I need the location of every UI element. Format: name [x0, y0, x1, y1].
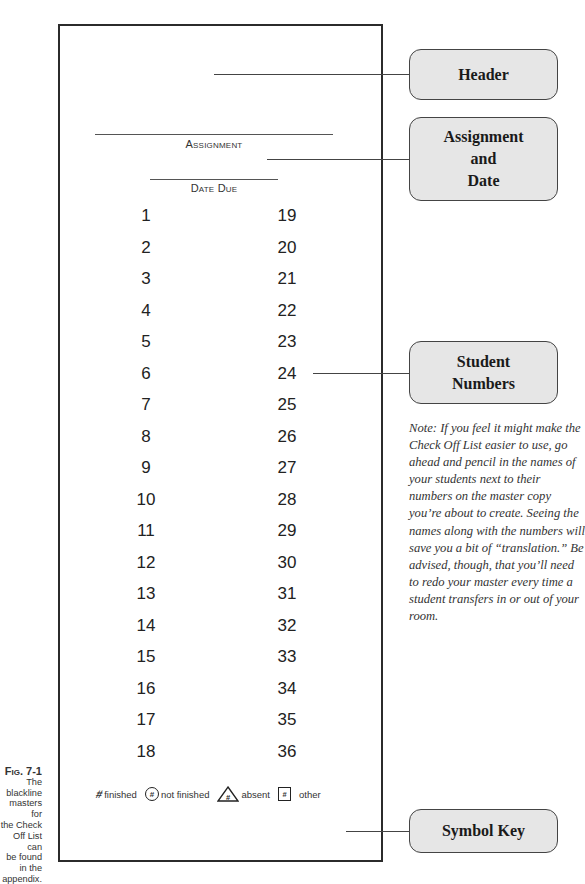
student-number: 7 — [126, 395, 166, 415]
student-number: 5 — [126, 332, 166, 352]
student-number: 8 — [126, 427, 166, 447]
student-number: 27 — [267, 458, 307, 478]
slash-hash-icon: # — [94, 788, 103, 800]
caption-line: in the — [0, 863, 42, 874]
callout-line-assignment — [267, 159, 409, 160]
caption-line: appendix. — [0, 874, 42, 884]
student-number: 20 — [267, 238, 307, 258]
student-number: 28 — [267, 490, 307, 510]
figure-caption: Fig. 7-1 The blackline masters for the C… — [0, 766, 42, 884]
callout-text: Date — [443, 170, 523, 192]
student-number: 6 — [126, 364, 166, 384]
key-item-other: # other — [278, 787, 321, 801]
student-number: 21 — [267, 269, 307, 289]
callout-text: Numbers — [452, 373, 515, 395]
key-label: absent — [241, 789, 270, 800]
student-number: 11 — [126, 521, 166, 541]
callout-line-header — [214, 74, 409, 75]
student-number: 34 — [267, 679, 307, 699]
student-number: 23 — [267, 332, 307, 352]
student-number: 31 — [267, 584, 307, 604]
student-number: 33 — [267, 647, 307, 667]
symbol-key: # finished # not finished # absent # oth… — [96, 786, 329, 802]
caption-line: be found — [0, 852, 42, 863]
callout-student-numbers: Student Numbers — [409, 341, 558, 404]
key-label: finished — [104, 789, 137, 800]
student-number: 10 — [126, 490, 166, 510]
square-hash-icon: # — [278, 787, 291, 801]
caption-line: blackline — [0, 788, 42, 799]
callout-text: Header — [458, 64, 509, 86]
student-number: 26 — [267, 427, 307, 447]
date-due-label: Date Due — [150, 182, 278, 194]
caption-line: masters for — [0, 798, 42, 820]
student-number: 13 — [126, 584, 166, 604]
student-number: 36 — [267, 742, 307, 762]
svg-text:#: # — [226, 793, 231, 802]
key-item-finished: # finished — [96, 788, 137, 800]
callout-text: and — [443, 148, 523, 170]
callout-line-symbol-key — [346, 831, 409, 832]
assignment-line — [95, 134, 333, 135]
key-item-not-finished: # not finished — [145, 787, 210, 801]
triangle-hash-icon: # — [217, 786, 239, 802]
student-number: 35 — [267, 710, 307, 730]
student-number: 15 — [126, 647, 166, 667]
key-label: not finished — [161, 789, 210, 800]
student-number: 1 — [126, 206, 166, 226]
student-number: 3 — [126, 269, 166, 289]
student-number: 22 — [267, 301, 307, 321]
callout-symbol-key: Symbol Key — [409, 809, 558, 853]
callout-text: Student — [452, 351, 515, 373]
student-number: 32 — [267, 616, 307, 636]
callout-text: Assignment — [443, 126, 523, 148]
key-item-absent: # absent — [217, 786, 270, 802]
student-number: 25 — [267, 395, 307, 415]
student-number: 17 — [126, 710, 166, 730]
date-due-line — [150, 179, 278, 180]
callout-line-student-numbers — [313, 373, 409, 374]
student-number: 29 — [267, 521, 307, 541]
caption-line: the Check — [0, 820, 42, 831]
caption-line: Off List can — [0, 831, 42, 853]
key-label: other — [299, 789, 321, 800]
student-number: 16 — [126, 679, 166, 699]
student-number: 9 — [126, 458, 166, 478]
student-number: 19 — [267, 206, 307, 226]
student-number: 24 — [267, 364, 307, 384]
circle-hash-icon: # — [145, 787, 159, 801]
student-number: 4 — [126, 301, 166, 321]
callout-text: Symbol Key — [442, 820, 525, 842]
side-note: Note: If you feel it might make the Chec… — [409, 420, 585, 625]
student-number: 2 — [126, 238, 166, 258]
student-number: 12 — [126, 553, 166, 573]
student-number: 30 — [267, 553, 307, 573]
figure-label: Fig. 7-1 — [0, 766, 42, 777]
student-number: 14 — [126, 616, 166, 636]
caption-line: The — [0, 777, 42, 788]
assignment-label: Assignment — [150, 138, 278, 150]
callout-header: Header — [409, 49, 558, 100]
student-number: 18 — [126, 742, 166, 762]
callout-assignment-date: Assignment and Date — [409, 117, 558, 201]
